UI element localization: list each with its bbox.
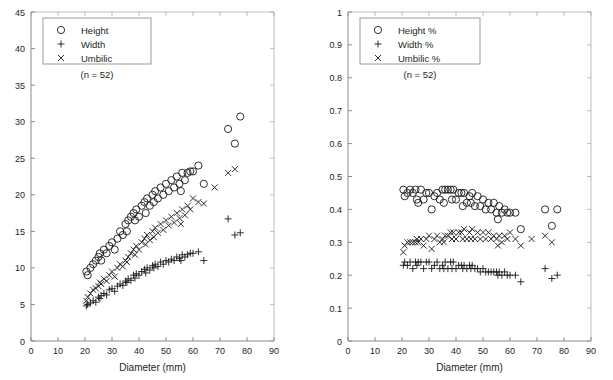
y-axis-tick-label: 0.8 [329,73,342,83]
series-cross-2 [83,166,238,304]
legend-label: Height % [398,25,437,36]
legend-label: Height [81,25,109,36]
x-axis-tick-label: 0 [345,346,350,356]
x-axis-tick-label: 30 [424,346,434,356]
left-scatter-panel: 0510152025303540450102030405060708090Dia… [0,0,306,380]
y-axis-tick-label: 10 [15,263,25,273]
y-axis-tick-label: 0 [20,337,25,347]
x-axis-tick-label: 70 [532,346,542,356]
y-axis-tick-label: 5 [20,300,25,310]
x-axis-tick-label: 80 [242,346,252,356]
right-plot-svg: 00.10.20.30.40.50.60.70.80.9101020304050… [307,0,613,380]
x-axis-tick-label: 90 [586,346,596,356]
legend-label: Width % [398,39,434,50]
y-axis-tick-label: 0.6 [329,139,342,149]
x-axis-tick-label: 60 [505,346,515,356]
legend-label: Width [81,39,105,50]
left-plot-svg: 0510152025303540450102030405060708090Dia… [0,0,306,380]
y-axis-tick-label: 0.5 [329,172,342,182]
x-axis-tick-label: 10 [370,346,380,356]
series-plus-1 [400,259,561,286]
x-axis-tick-label: 30 [107,346,117,356]
y-axis-tick-label: 0.9 [329,40,342,50]
x-axis-tick-label: 40 [451,346,461,356]
y-axis-tick-label: 0 [337,337,342,347]
y-axis-tick-label: 15 [15,227,25,237]
series-cross-2 [400,226,554,255]
sample-size-annotation: (n = 52) [80,69,113,80]
x-axis-title: Diameter (mm) [436,362,503,373]
x-axis-tick-label: 20 [80,346,90,356]
y-axis-tick-label: 40 [15,44,25,54]
x-axis-tick-label: 70 [215,346,225,356]
y-axis-tick-label: 35 [15,81,25,91]
x-axis-tick-label: 40 [134,346,144,356]
x-axis-tick-label: 90 [269,346,279,356]
x-axis-tick-label: 80 [559,346,569,356]
y-axis-tick-label: 25 [15,154,25,164]
legend-label: Umbilic [81,53,112,64]
y-axis-tick-label: 45 [15,8,25,18]
figure-container: 0510152025303540450102030405060708090Dia… [0,0,613,380]
y-axis-tick-label: 0.4 [329,205,342,215]
y-axis-tick-label: 1 [337,8,342,18]
legend: HeightWidthUmbilic [43,18,151,64]
series-circle-0 [400,186,561,233]
x-axis-tick-label: 0 [28,346,33,356]
x-axis-tick-label: 20 [397,346,407,356]
x-axis-tick-label: 60 [188,346,198,356]
y-axis-tick-label: 0.1 [329,304,342,314]
x-axis-tick-label: 50 [161,346,171,356]
y-axis-tick-label: 30 [15,117,25,127]
y-axis-tick-label: 0.7 [329,106,342,116]
series-circle-0 [83,113,244,279]
y-axis-tick-label: 0.2 [329,271,342,281]
x-axis-tick-label: 50 [478,346,488,356]
x-axis-tick-label: 10 [53,346,63,356]
legend-label: Umbilic % [398,53,441,64]
y-axis-tick-label: 0.3 [329,238,342,248]
x-axis-title: Diameter (mm) [119,362,186,373]
right-scatter-panel: 00.10.20.30.40.50.60.70.80.9101020304050… [307,0,613,380]
y-axis-tick-label: 20 [15,190,25,200]
legend: Height %Width %Umbilic % [360,18,480,64]
sample-size-annotation: (n = 52) [403,69,436,80]
